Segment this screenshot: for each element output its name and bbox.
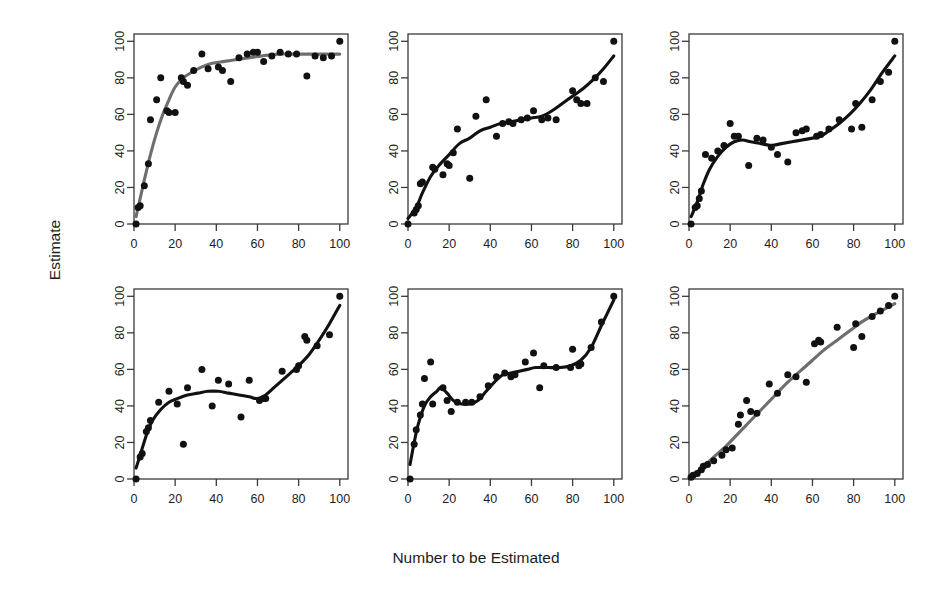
x-tick-label: 0 (405, 492, 412, 506)
data-point (729, 444, 736, 451)
data-point (760, 136, 767, 143)
data-point (336, 293, 343, 300)
data-point (254, 49, 261, 56)
data-point (454, 399, 461, 406)
y-tick-label: 20 (668, 180, 682, 194)
data-point (139, 450, 146, 457)
data-point (407, 476, 414, 483)
x-tick-label: 40 (764, 492, 778, 506)
panel-5: 020406080100020406080100 (387, 286, 624, 506)
data-point (784, 158, 791, 165)
panel-frame (689, 34, 903, 224)
y-tick-label: 40 (113, 144, 127, 158)
x-axis-label: Number to be Estimated (392, 549, 559, 566)
data-point (714, 147, 721, 154)
data-point (735, 133, 742, 140)
y-tick-label: 0 (668, 475, 682, 482)
data-point (147, 116, 154, 123)
data-point (817, 131, 824, 138)
data-point (419, 401, 426, 408)
data-point (727, 120, 734, 127)
y-tick-label: 40 (387, 399, 401, 413)
y-tick-label: 0 (113, 220, 127, 227)
x-tick-label: 40 (483, 237, 497, 251)
x-tick-label: 100 (329, 492, 350, 506)
data-point (262, 395, 269, 402)
data-point (172, 109, 179, 116)
data-point (165, 109, 172, 116)
data-point (696, 195, 703, 202)
y-tick-label: 40 (668, 399, 682, 413)
data-point (448, 408, 455, 415)
data-point (745, 162, 752, 169)
data-point (858, 333, 865, 340)
data-point (753, 135, 760, 142)
x-tick-label: 0 (131, 237, 138, 251)
data-point (600, 78, 607, 85)
data-point (501, 370, 508, 377)
data-point (279, 368, 286, 375)
multi-panel-scatter-figure: Estimate Number to be Estimated 02040608… (0, 0, 952, 589)
data-point (869, 313, 876, 320)
data-point (444, 397, 451, 404)
y-tick-label: 100 (668, 31, 682, 52)
data-point (584, 100, 591, 107)
data-point (877, 78, 884, 85)
x-tick-label: 0 (405, 237, 412, 251)
data-point (553, 364, 560, 371)
data-point (246, 377, 253, 384)
data-point (540, 362, 547, 369)
x-tick-label: 20 (723, 492, 737, 506)
data-point (869, 96, 876, 103)
y-tick-label: 60 (387, 107, 401, 121)
data-point (466, 175, 473, 182)
data-point (244, 51, 251, 58)
fit-curve (408, 56, 614, 219)
data-point (285, 51, 292, 58)
data-point (165, 388, 172, 395)
data-point (493, 373, 500, 380)
y-tick-label: 100 (387, 286, 401, 307)
panel-frame (134, 289, 348, 479)
panel-2: 020406080100020406080100 (387, 31, 624, 251)
y-tick-label: 80 (668, 326, 682, 340)
data-point (735, 421, 742, 428)
x-tick-label: 60 (251, 492, 265, 506)
data-point (180, 441, 187, 448)
data-point (326, 331, 333, 338)
data-point (544, 115, 551, 122)
data-point (698, 188, 705, 195)
y-tick-label: 60 (668, 362, 682, 376)
data-point (209, 402, 216, 409)
data-point (468, 399, 475, 406)
data-point (145, 424, 152, 431)
data-point (834, 324, 841, 331)
data-point (312, 52, 319, 59)
data-point (260, 58, 267, 65)
data-point (538, 116, 545, 123)
data-point (301, 333, 308, 340)
y-tick-label: 0 (113, 475, 127, 482)
fit-curve (136, 305, 340, 468)
data-point (238, 413, 245, 420)
data-point (421, 375, 428, 382)
data-point (567, 364, 574, 371)
x-tick-label: 40 (209, 237, 223, 251)
y-tick-label: 0 (387, 475, 401, 482)
y-tick-label: 60 (113, 362, 127, 376)
data-point (891, 293, 898, 300)
data-point (314, 342, 321, 349)
data-point (852, 100, 859, 107)
data-point (774, 390, 781, 397)
data-point (336, 38, 343, 45)
data-point (852, 320, 859, 327)
data-point (462, 399, 469, 406)
data-point (439, 384, 446, 391)
data-point (694, 202, 701, 209)
x-tick-label: 60 (525, 237, 539, 251)
data-point (415, 202, 422, 209)
panel-frame (134, 34, 348, 224)
data-point (885, 302, 892, 309)
data-point (477, 393, 484, 400)
data-point (225, 381, 232, 388)
